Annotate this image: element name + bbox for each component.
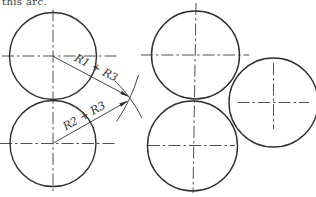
caption-text: this arc. (2, 0, 62, 7)
compass-arc-from-bottom-center (115, 81, 143, 119)
compass-arc-from-top-center (117, 75, 139, 122)
drafting-figure: this arc. R1 + R3R2 + R3 (0, 0, 316, 197)
right-bottom-circle (148, 101, 238, 191)
right-vertical-centerline (193, 3, 196, 193)
caption-clip: this arc. (2, 0, 62, 7)
diagram-svg: R1 + R3R2 + R3 (0, 0, 316, 197)
